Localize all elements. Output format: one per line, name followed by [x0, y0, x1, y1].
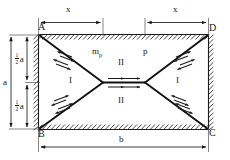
dim-label-left-total-a: a [3, 78, 7, 87]
moment-arrows-upper-left [54, 52, 75, 70]
region-label-bottom-II: II [118, 96, 124, 105]
dim-label-left-upper-half: 1 2 a [15, 53, 24, 65]
corner-label-d: D [209, 23, 216, 33]
dim-label-left-upper-a: a [20, 55, 24, 64]
moment-label-m: m [92, 46, 99, 56]
moment-label-mp: mp [92, 47, 102, 58]
yield-line-figure: A D B C x x b a 1 2 a 1 2 a mp p I I II … [0, 0, 230, 160]
top-edge-support [38, 35, 209, 40]
yield-lines [39, 35, 208, 129]
fraction-one-half-upper: 1 2 [15, 53, 19, 65]
region-label-top-II: II [118, 58, 124, 67]
dim-top-left-x [39, 18, 104, 36]
dim-left-total-ext [9, 35, 40, 129]
corner-label-a: A [38, 22, 45, 32]
moment-label-subscript-p: p [99, 51, 102, 58]
dim-label-left-lower-a: a [20, 102, 24, 111]
pressure-label-p: p [143, 47, 148, 56]
dim-top-right-x [145, 18, 209, 36]
dim-label-top-left-x: x [66, 5, 71, 14]
corner-label-c: C [209, 128, 216, 138]
yield-line-c-to-node-right [145, 83, 208, 130]
moment-arrows-upper-right [174, 52, 195, 70]
slab-diagram-canvas [0, 0, 230, 160]
dim-label-top-right-x: x [173, 5, 178, 14]
fraction-one-half-lower: 1 2 [15, 100, 19, 112]
yield-line-b-to-node-left [39, 83, 103, 130]
bottom-edge-support [38, 125, 209, 130]
corner-label-b: B [38, 129, 45, 139]
right-edge-support [209, 34, 214, 130]
region-label-left-I: I [69, 76, 72, 85]
region-label-right-I: I [176, 76, 179, 85]
dim-label-bottom-b: b [119, 135, 124, 144]
left-edge-support [34, 34, 39, 130]
dim-label-left-lower-half: 1 2 a [15, 100, 24, 112]
moment-arrows-lower-left [52, 96, 73, 114]
